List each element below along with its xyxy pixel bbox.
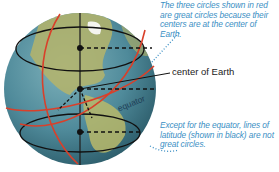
great-circles-caption: The three circles shown in red are great… [160, 1, 278, 39]
center-of-earth-label: center of Earth [172, 66, 234, 77]
latitude-caption: Except for the equator, lines of latitud… [160, 121, 278, 150]
